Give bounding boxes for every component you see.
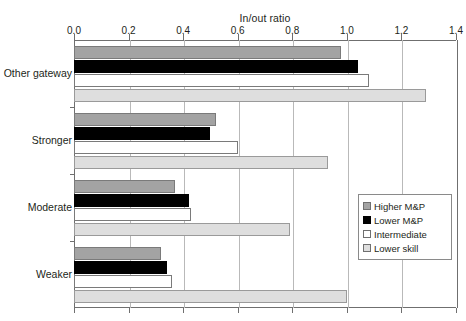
gridline-7 — [457, 40, 458, 308]
chart-figure: In/out ratio 0.00.20.40.60.81.01.21.4 Hi… — [0, 0, 466, 321]
legend-item-1[interactable]: Lower M&P — [363, 213, 447, 227]
bar-3-0 — [74, 247, 161, 260]
x-tick-mark-bottom-4 — [292, 308, 293, 313]
x-tick-mark-2 — [183, 34, 184, 40]
bar-1-3 — [74, 156, 328, 169]
legend-item-3[interactable]: Lower skill — [363, 241, 447, 255]
legend-label-0: Higher M&P — [374, 201, 425, 212]
legend-label-1: Lower M&P — [374, 215, 423, 226]
clipped-caption-artifact — [0, 0, 466, 4]
x-tick-mark-bottom-3 — [238, 308, 239, 313]
x-tick-mark-bottom-7 — [456, 308, 457, 313]
legend-label-2: Intermediate — [374, 229, 427, 240]
legend-swatch-icon-2 — [363, 230, 371, 238]
y-category-label-1: Stronger — [0, 134, 72, 146]
bar-3-2 — [74, 275, 172, 288]
x-tick-mark-bottom-1 — [129, 308, 130, 313]
bar-1-1 — [74, 127, 210, 140]
bar-0-1 — [74, 60, 358, 73]
x-axis-title: In/out ratio — [74, 12, 456, 24]
legend-swatch-icon-0 — [363, 202, 371, 210]
x-tick-mark-6 — [401, 34, 402, 40]
x-tick-mark-bottom-0 — [74, 308, 75, 313]
y-category-tick-1 — [70, 107, 75, 108]
x-tick-mark-bottom-2 — [183, 308, 184, 313]
y-category-label-2: Moderate — [0, 201, 72, 213]
bar-1-0 — [74, 113, 216, 126]
y-category-label-3: Weaker — [0, 268, 72, 280]
bar-2-3 — [74, 223, 290, 236]
bar-0-3 — [74, 89, 426, 102]
bar-0-0 — [74, 46, 341, 59]
bar-3-1 — [74, 261, 167, 274]
y-category-label-0: Other gateway — [0, 67, 72, 79]
x-tick-mark-4 — [292, 34, 293, 40]
gridline-6 — [402, 40, 403, 308]
legend-swatch-icon-1 — [363, 216, 371, 224]
x-tick-mark-bottom-6 — [401, 308, 402, 313]
x-tick-mark-1 — [129, 34, 130, 40]
bar-3-3 — [74, 290, 347, 303]
bar-2-1 — [74, 194, 189, 207]
legend-swatch-icon-3 — [363, 244, 371, 252]
y-category-tick-2 — [70, 174, 75, 175]
x-tick-mark-3 — [238, 34, 239, 40]
bar-2-2 — [74, 208, 191, 221]
x-tick-mark-bottom-5 — [347, 308, 348, 313]
legend-item-0[interactable]: Higher M&P — [363, 199, 447, 213]
y-category-tick-3 — [70, 241, 75, 242]
x-axis-tick-labels: 0.00.20.40.60.81.01.21.4 — [0, 25, 466, 37]
x-tick-mark-5 — [347, 34, 348, 40]
x-tick-mark-7 — [456, 34, 457, 40]
bar-0-2 — [74, 74, 369, 87]
bar-1-2 — [74, 141, 238, 154]
bar-2-0 — [74, 180, 175, 193]
legend-label-3: Lower skill — [374, 243, 418, 254]
x-tick-mark-0 — [74, 34, 75, 40]
legend-item-2[interactable]: Intermediate — [363, 227, 447, 241]
chart-legend: Higher M&PLower M&PIntermediateLower ski… — [358, 194, 452, 260]
